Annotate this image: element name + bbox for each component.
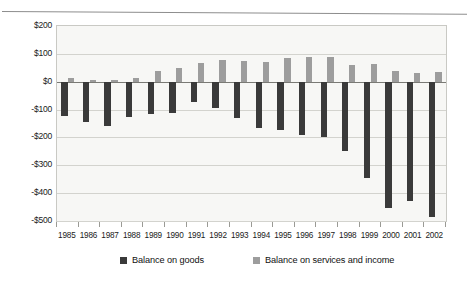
bar-group — [165, 26, 187, 221]
bar-group — [230, 26, 252, 221]
x-tick — [207, 222, 208, 227]
x-tick-label-2001: 2001 — [404, 231, 421, 240]
bar-goods-1986 — [83, 82, 89, 122]
bar-goods-1998 — [342, 82, 348, 151]
bar-services-1991 — [198, 63, 204, 82]
y-tick-label--200: -$200 — [4, 131, 52, 141]
bar-services-1989 — [155, 71, 161, 82]
legend-item-services: Balance on services and income — [253, 255, 394, 265]
x-tick-label-1985: 1985 — [58, 231, 75, 240]
bar-goods-1987 — [104, 82, 110, 127]
x-tick-label-2000: 2000 — [382, 231, 399, 240]
x-tick — [121, 222, 122, 227]
x-tick — [272, 222, 273, 227]
bar-services-1994 — [263, 62, 269, 82]
x-tick — [186, 222, 187, 227]
bar-group — [122, 26, 144, 221]
bar-services-1997 — [327, 57, 333, 81]
plot-area — [56, 25, 447, 222]
bar-goods-1993 — [234, 82, 240, 119]
x-tick — [56, 222, 57, 227]
bar-group — [338, 26, 360, 221]
x-tick — [164, 222, 165, 227]
x-tick-label-1988: 1988 — [123, 231, 140, 240]
chart-legend: Balance on goods Balance on services and… — [0, 255, 471, 271]
chart-figure: $200$100$0-$100-$200-$300-$400-$500 1985… — [0, 0, 471, 287]
x-tick — [402, 222, 403, 227]
bar-group — [57, 26, 79, 221]
x-tick — [445, 222, 446, 227]
x-tick — [337, 222, 338, 227]
bar-goods-1985 — [61, 82, 67, 116]
y-tick-label--100: -$100 — [4, 104, 52, 114]
bar-goods-1989 — [148, 82, 154, 114]
bar-goods-1988 — [126, 82, 132, 117]
bar-services-1999 — [371, 64, 377, 82]
x-tick-label-1998: 1998 — [339, 231, 356, 240]
bar-services-2001 — [414, 73, 420, 82]
bar-goods-1990 — [169, 82, 175, 113]
legend-label-services: Balance on services and income — [265, 255, 394, 265]
bar-group — [273, 26, 295, 221]
x-tick-label-1987: 1987 — [101, 231, 118, 240]
bar-services-1995 — [284, 58, 290, 81]
y-tick-label--400: -$400 — [4, 187, 52, 197]
bar-goods-1991 — [191, 82, 197, 103]
bar-group — [187, 26, 209, 221]
y-tick-label-0: $0 — [4, 76, 52, 86]
x-tick-label-1993: 1993 — [231, 231, 248, 240]
x-tick — [229, 222, 230, 227]
bar-group — [100, 26, 122, 221]
bar-goods-2001 — [407, 82, 413, 201]
legend-label-goods: Balance on goods — [132, 255, 204, 265]
x-tick-label-2002: 2002 — [425, 231, 442, 240]
bar-services-1986 — [90, 80, 96, 82]
bar-goods-1992 — [212, 82, 218, 109]
x-tick-label-1996: 1996 — [296, 231, 313, 240]
bar-goods-1997 — [321, 82, 327, 137]
x-tick — [142, 222, 143, 227]
y-tick-label-100: $100 — [4, 48, 52, 58]
bar-goods-1999 — [364, 82, 370, 178]
bar-goods-1996 — [299, 82, 305, 135]
x-tick — [251, 222, 252, 227]
x-tick — [359, 222, 360, 227]
x-tick — [423, 222, 424, 227]
legend-swatch-services-icon — [253, 257, 260, 264]
bar-group — [381, 26, 403, 221]
bar-services-2000 — [392, 71, 398, 82]
x-tick — [99, 222, 100, 227]
legend-swatch-goods-icon — [120, 257, 127, 264]
x-axis-ticks — [56, 222, 447, 229]
x-tick-label-1997: 1997 — [317, 231, 334, 240]
x-tick — [380, 222, 381, 227]
y-tick-label-200: $200 — [4, 20, 52, 30]
bar-services-1996 — [306, 57, 312, 82]
x-tick — [78, 222, 79, 227]
x-tick-label-1992: 1992 — [209, 231, 226, 240]
x-axis-labels: 1985198619871988198919901991199219931994… — [56, 231, 447, 245]
bar-group — [424, 26, 446, 221]
legend-item-goods: Balance on goods — [120, 255, 204, 265]
bar-services-1993 — [241, 61, 247, 82]
bar-services-1992 — [219, 60, 225, 82]
bar-goods-2000 — [385, 82, 391, 208]
bar-services-1985 — [68, 78, 74, 81]
bar-services-1990 — [176, 68, 182, 82]
bar-services-1998 — [349, 65, 355, 82]
x-tick — [294, 222, 295, 227]
bar-group — [208, 26, 230, 221]
y-axis-labels: $200$100$0-$100-$200-$300-$400-$500 — [0, 25, 52, 222]
plot-wrapper: $200$100$0-$100-$200-$300-$400-$500 1985… — [0, 0, 471, 287]
x-tick-label-1989: 1989 — [145, 231, 162, 240]
x-tick-label-1995: 1995 — [274, 231, 291, 240]
bar-group — [143, 26, 165, 221]
bar-services-1988 — [133, 78, 139, 82]
x-tick-label-1990: 1990 — [166, 231, 183, 240]
x-tick-label-1991: 1991 — [188, 231, 205, 240]
bar-goods-2002 — [429, 82, 435, 217]
x-tick-label-1999: 1999 — [361, 231, 378, 240]
bar-services-1987 — [111, 80, 117, 81]
bar-group — [316, 26, 338, 221]
bar-group — [252, 26, 274, 221]
